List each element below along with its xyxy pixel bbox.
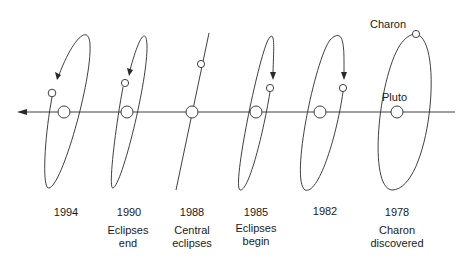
charon-body <box>266 84 273 91</box>
caption-1988-line2: eclipses <box>172 237 212 250</box>
charon-body <box>48 89 56 97</box>
pluto-body <box>391 106 403 118</box>
charon-body <box>197 60 204 67</box>
year-label-1990: 1990 <box>117 206 141 219</box>
arrow-left-icon <box>17 109 27 115</box>
caption-1985-line1: Eclipses <box>236 222 277 235</box>
charon-body <box>412 30 419 37</box>
orbit-1988 <box>176 33 209 190</box>
year-label-1978: 1978 <box>385 206 409 219</box>
caption-1990-line2: end <box>119 237 137 250</box>
year-label-1985: 1985 <box>244 206 268 219</box>
orbit-1985 <box>238 36 276 190</box>
year-label-1982: 1982 <box>313 205 337 218</box>
pluto-body <box>186 106 198 118</box>
pluto-label: Pluto <box>382 91 407 103</box>
year-label-1994: 1994 <box>54 206 78 219</box>
caption-1988-line1: Central <box>174 224 209 237</box>
charon-label: Charon <box>370 18 406 30</box>
charon-body <box>339 84 346 91</box>
pluto-body <box>58 106 70 118</box>
orbit-1982 <box>300 35 347 190</box>
caption-1990-line1: Eclipses <box>108 224 149 237</box>
caption-1985-line2: begin <box>243 235 270 248</box>
orbit-1978 <box>378 30 431 190</box>
year-label-1988: 1988 <box>180 206 204 219</box>
orbit-1994 <box>45 35 90 188</box>
caption-1978-line2: discovered <box>370 237 423 250</box>
charon-body <box>121 79 128 86</box>
pluto-body <box>121 106 133 118</box>
pluto-body <box>250 106 262 118</box>
pluto-body <box>314 106 326 118</box>
caption-1978-line1: Charon <box>379 224 415 237</box>
